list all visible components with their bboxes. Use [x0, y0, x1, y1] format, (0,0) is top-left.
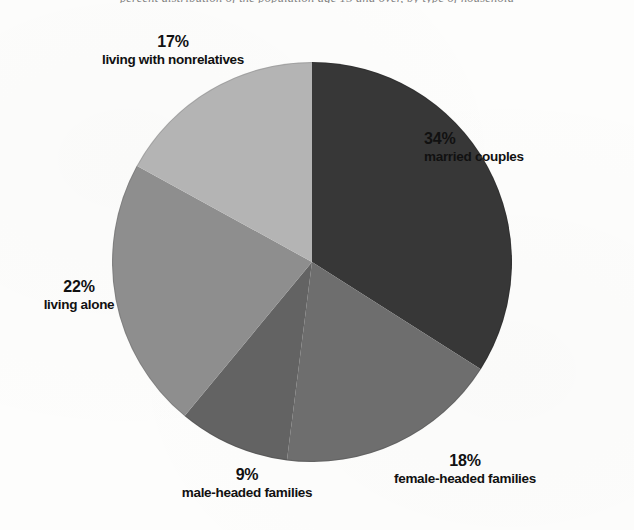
pie-label-percent: 18% — [352, 452, 578, 471]
pie-label-living-alone: 22% living alone — [6, 278, 152, 313]
pie-label-living-with-nonrelatives: 17% living with nonrelatives — [62, 33, 284, 68]
pie-label-name: living alone — [6, 297, 152, 313]
pie-chart — [112, 62, 512, 462]
pie-label-name: living with nonrelatives — [62, 52, 284, 68]
pie-label-percent: 17% — [62, 33, 284, 52]
pie-label-name: female-headed families — [352, 471, 578, 487]
pie-label-percent: 9% — [132, 466, 362, 485]
pie-label-name: male-headed families — [132, 485, 362, 501]
pie-label-married-couples: 34% married couples — [424, 130, 634, 165]
pie-label-name: married couples — [424, 149, 634, 165]
pie-label-male-headed-families: 9% male-headed families — [132, 466, 362, 501]
pie-slices — [112, 62, 512, 462]
pie-label-percent: 22% — [6, 278, 152, 297]
pie-label-female-headed-families: 18% female-headed families — [352, 452, 578, 487]
pie-chart-svg — [112, 62, 512, 462]
figure-caption: percent distribution of the population a… — [0, 0, 634, 3]
pie-label-percent: 34% — [424, 130, 634, 149]
figure-page: percent distribution of the population a… — [0, 0, 634, 530]
